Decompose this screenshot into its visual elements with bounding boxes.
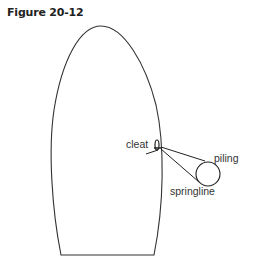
cleat-label: cleat <box>126 138 148 150</box>
springline-label: springline <box>170 185 215 197</box>
cleat-icon <box>146 140 161 154</box>
piling-label: piling <box>214 152 239 164</box>
boat-diagram <box>0 0 254 273</box>
piling-circle <box>196 162 220 186</box>
springline-rope <box>161 147 205 182</box>
